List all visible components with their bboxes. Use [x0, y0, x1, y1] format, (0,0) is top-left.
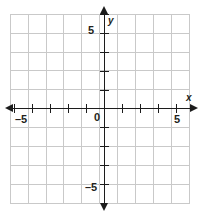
- y-axis-label-negative: –5: [85, 182, 97, 193]
- y-axis-tick: [100, 33, 109, 34]
- y-axis-tick: [100, 146, 109, 147]
- x-axis-name: x: [186, 93, 192, 103]
- x-axis-tick: [86, 104, 87, 113]
- gridline-vertical: [46, 14, 47, 204]
- gridline-vertical: [153, 14, 154, 204]
- origin-label: 0: [94, 112, 100, 123]
- y-axis-tick: [100, 52, 109, 53]
- gridline-vertical: [28, 14, 29, 204]
- y-axis-tick: [100, 127, 109, 128]
- y-axis-tick: [100, 71, 109, 72]
- x-axis-tick: [158, 104, 159, 113]
- y-axis-tick: [100, 90, 109, 91]
- x-axis-tick: [50, 104, 51, 113]
- x-axis-negative-arrow-icon: [5, 104, 13, 112]
- y-axis-name: y: [108, 16, 114, 26]
- x-axis-tick: [140, 104, 141, 113]
- y-axis-positive-arrow-icon: [100, 6, 108, 14]
- gridline-vertical: [135, 14, 136, 204]
- gridline-vertical: [117, 14, 118, 204]
- gridline-vertical: [171, 14, 172, 204]
- x-axis-label-positive: 5: [174, 114, 180, 125]
- x-axis-tick: [68, 104, 69, 113]
- y-axis-tick: [100, 184, 109, 185]
- x-axis-tick: [122, 104, 123, 113]
- x-axis-positive-arrow-icon: [190, 104, 198, 112]
- gridline-vertical: [81, 14, 82, 204]
- x-axis-tick: [14, 104, 15, 113]
- coordinate-plane: 5 –5 0 –5 5 x y: [0, 0, 203, 214]
- y-axis-label-positive: 5: [88, 25, 94, 36]
- x-axis-tick: [176, 104, 177, 113]
- x-axis-tick: [32, 104, 33, 113]
- x-axis-label-negative: –5: [15, 114, 27, 125]
- y-axis-negative-arrow-icon: [100, 203, 108, 211]
- y-axis-tick: [100, 165, 109, 166]
- x-axis: [12, 108, 194, 109]
- gridline-vertical: [99, 14, 100, 204]
- y-axis: [104, 12, 105, 206]
- gridline-vertical: [63, 14, 64, 204]
- grid-lines: [10, 14, 190, 204]
